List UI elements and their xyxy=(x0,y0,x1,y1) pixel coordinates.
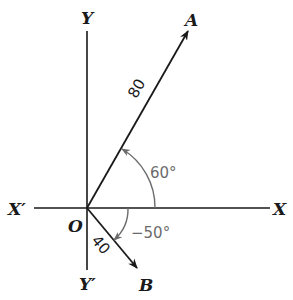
y-negative-label: Y′ xyxy=(79,274,96,294)
origin-label: O xyxy=(68,216,83,236)
vector-b-label: B xyxy=(138,275,153,295)
y-positive-label: Y xyxy=(81,8,95,28)
x-positive-label: X xyxy=(272,199,287,219)
vector-a-label: A xyxy=(183,10,198,30)
angle-label-60: 60° xyxy=(150,164,177,182)
angle-label-minus-50: −50° xyxy=(131,224,170,242)
x-negative-label: X′ xyxy=(7,199,26,219)
vector-a-magnitude: 80 xyxy=(124,76,149,102)
vector-diagram: Y Y′ X′ X O A B 80 40 60° −50° xyxy=(0,0,293,300)
angle-arc-minus-50 xyxy=(114,208,128,240)
